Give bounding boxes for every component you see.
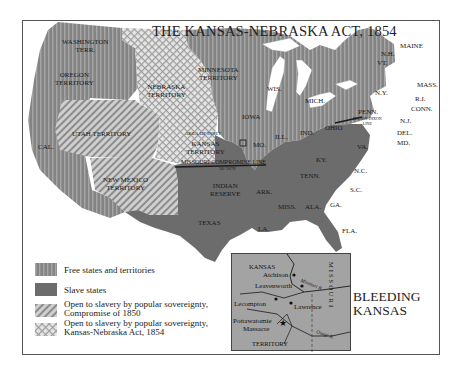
label-mich: MICH.: [305, 97, 325, 105]
label-texas: TEXAS: [198, 219, 221, 227]
inset-label-massacre: Massacre: [243, 325, 269, 333]
label-cal: CAL.: [38, 143, 54, 151]
label-kansas: KANSASTERRITORY: [186, 140, 225, 156]
label-utah: UTAH TERRITORY: [72, 130, 131, 138]
label-mason-dixon: MASON-DIXONLINE: [353, 116, 382, 126]
bleeding-kansas-inset: ★ KANSAS Atchison Leavenworth Lecompton …: [231, 253, 351, 351]
legend-item-free: Free states and territories: [35, 263, 155, 276]
label-minnesota: MINNESOTATERRITORY: [198, 66, 239, 82]
label-mo: MO.: [253, 141, 266, 149]
label-va: VA.: [357, 143, 368, 151]
label-ohio: OHIO: [325, 124, 343, 132]
label-ga: GA.: [330, 201, 342, 209]
label-nc: N.C.: [354, 167, 367, 175]
label-sc: S.C.: [350, 186, 362, 194]
label-area-of-inset: AREA OF INSET: [185, 130, 221, 138]
swatch-slave-icon: [35, 283, 57, 296]
label-vt: VT.: [377, 59, 388, 67]
legend-item-compromise-1850: Open to slavery by popular sovereignty,C…: [35, 300, 208, 318]
label-wis: WIS.: [267, 85, 282, 93]
label-maine: MAINE: [400, 42, 423, 50]
label-ny: N.Y.: [375, 89, 388, 97]
label-indian-reserve: INDIANRESERVE: [210, 182, 241, 198]
label-nj: N.J.: [400, 117, 411, 125]
label-conn: CONN.: [411, 105, 433, 113]
label-nh: N.H.: [381, 50, 395, 58]
label-penn: PENN.: [358, 108, 378, 116]
massacre-star-icon: ★: [279, 318, 287, 328]
label-iowa: IOWA: [242, 113, 260, 121]
inset-label-missouri: MISSOURI: [328, 262, 335, 309]
swatch-compromise-icon: [35, 304, 57, 317]
swatch-free-icon: [35, 263, 57, 276]
inset-label-kansas: KANSAS: [249, 263, 275, 270]
inset-label-lecompton: Lecompton: [234, 300, 266, 308]
label-ark: ARK.: [256, 188, 273, 196]
label-ill: ILL.: [275, 133, 288, 141]
label-missouri-compromise-lat: 36°30'N: [219, 165, 236, 173]
label-del: DEL.: [397, 129, 412, 137]
label-oregon: OREGONTERRITORY: [55, 71, 94, 87]
label-ri: R.I.: [415, 95, 426, 103]
legend-item-kansas-nebraska: Open to slavery by popular sovereignty,K…: [35, 319, 208, 337]
label-mass: MASS.: [417, 81, 438, 89]
label-new-mexico: NEW MEXICOTERRITORY: [103, 176, 148, 192]
inset-label-lawrence: Lawrence: [294, 303, 322, 311]
inset-label-leavenworth: Leavenworth: [255, 282, 292, 290]
label-nebraska: NEBRASKATERRITORY: [147, 83, 186, 99]
inset-label-pottawatomie: Pottawatomie: [233, 317, 272, 325]
label-la: LA.: [258, 225, 269, 233]
label-washington: WASHINGTONTERR.: [62, 38, 109, 54]
label-ala: ALA.: [305, 203, 321, 211]
label-ky: KY.: [316, 156, 327, 164]
label-miss: MISS.: [278, 203, 296, 211]
inset-label-territory: TERRITORY: [252, 340, 288, 347]
bleeding-kansas-title: BLEEDINGKANSAS: [353, 290, 421, 318]
inset-label-atchison: Atchison: [263, 271, 288, 279]
swatch-kansas-nebraska-icon: [35, 323, 57, 336]
label-ind: IND.: [300, 129, 314, 137]
label-tenn: TENN.: [300, 172, 320, 180]
map-title: THE KANSAS-NEBRASKA ACT, 1854: [152, 23, 397, 40]
label-md: MD.: [397, 139, 410, 147]
region-utah: [55, 100, 160, 158]
legend-item-slave: Slave states: [35, 283, 106, 296]
label-fla: FLA.: [342, 227, 357, 235]
